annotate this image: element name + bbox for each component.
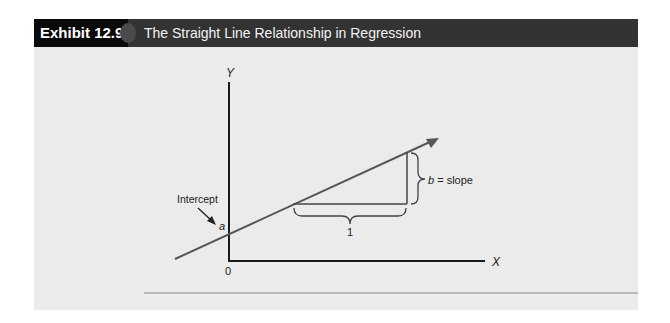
slope-label: b = slope [428,174,473,186]
y-axis-label: Y [226,66,235,80]
origin-label: 0 [225,265,231,277]
regression-diagram: Y X 0 1 b = slope Intercept a [0,0,670,323]
rise-brace-icon [411,153,425,204]
run-label: 1 [347,226,353,238]
x-axis-label: X [491,255,501,269]
intercept-symbol: a [219,220,225,232]
intercept-label: Intercept [177,193,218,205]
run-brace-icon [294,208,406,224]
slope-text: = slope [434,174,473,186]
